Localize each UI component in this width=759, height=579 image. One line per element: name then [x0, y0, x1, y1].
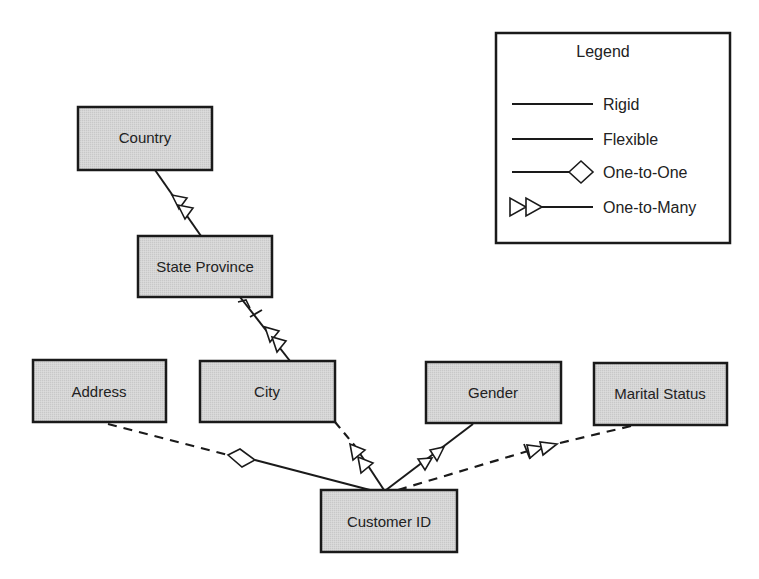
entity-label: Customer ID	[347, 513, 431, 530]
one-to-many-arrow-icon	[265, 327, 286, 352]
entity-label: Address	[71, 383, 126, 400]
legend-label: One-to-One	[603, 164, 688, 181]
connector-city-state-province	[238, 297, 290, 361]
entity-label: Marital Status	[614, 385, 706, 402]
connector-customer-city	[335, 422, 384, 490]
hierarchy-diagram: Country State Province Address City Gend…	[0, 0, 759, 579]
connector-state-province-country	[155, 170, 201, 236]
entity-label: Gender	[468, 384, 518, 401]
entity-city[interactable]: City	[200, 361, 335, 422]
legend: Legend Rigid Flexible One-to-One One-to-…	[496, 33, 730, 243]
one-to-one-diamond-icon	[228, 449, 255, 467]
entity-gender[interactable]: Gender	[426, 362, 561, 423]
entity-state-province[interactable]: State Province	[138, 236, 272, 297]
entity-customer-id[interactable]: Customer ID	[321, 490, 457, 552]
legend-label: Rigid	[603, 96, 639, 113]
entity-label: City	[254, 383, 280, 400]
entity-address[interactable]: Address	[33, 360, 166, 422]
legend-label: One-to-Many	[603, 199, 696, 216]
entity-marital-status[interactable]: Marital Status	[594, 363, 727, 425]
connector-customer-marital-status	[398, 425, 635, 490]
entity-label: State Province	[156, 258, 254, 275]
connector-customer-address	[108, 424, 370, 490]
one-to-many-arrow-icon	[418, 447, 444, 470]
entity-label: Country	[119, 129, 172, 146]
legend-title: Legend	[576, 43, 629, 60]
one-to-many-arrow-icon	[172, 195, 193, 219]
legend-label: Flexible	[603, 131, 658, 148]
crossed-arrow-icon	[524, 442, 557, 459]
entity-country[interactable]: Country	[78, 107, 212, 170]
